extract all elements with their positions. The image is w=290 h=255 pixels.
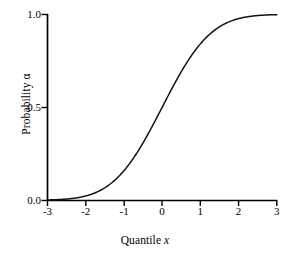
x-axis-label-variable: x — [164, 234, 169, 246]
figure-normal-cdf-plot: -3 -2 -1 0 1 2 3 0.0 0.5 1.0 Quantile x … — [0, 0, 290, 255]
y-tick-label-0-0: 0.0 — [13, 194, 41, 206]
x-tick-label--3: -3 — [33, 205, 63, 217]
x-tick-label--2: -2 — [71, 205, 101, 217]
x-tick-label-3: 3 — [262, 205, 290, 217]
x-tick-label-0: 0 — [147, 205, 177, 217]
x-axis-label-text: Quantile — [121, 234, 164, 246]
y-axis-label-variable: α — [20, 73, 32, 79]
y-tick-label-1-0: 1.0 — [13, 8, 41, 20]
x-axis-label: Quantile x — [0, 234, 290, 246]
y-axis-label: Probability α — [20, 29, 32, 179]
x-tick-label-2: 2 — [224, 205, 254, 217]
y-axis-label-text: Probability — [20, 79, 32, 134]
normal-cdf-curve — [48, 15, 277, 200]
x-tick-label--1: -1 — [109, 205, 139, 217]
x-tick-label-1: 1 — [185, 205, 215, 217]
y-axis-label-container: Probability α — [20, 29, 36, 179]
